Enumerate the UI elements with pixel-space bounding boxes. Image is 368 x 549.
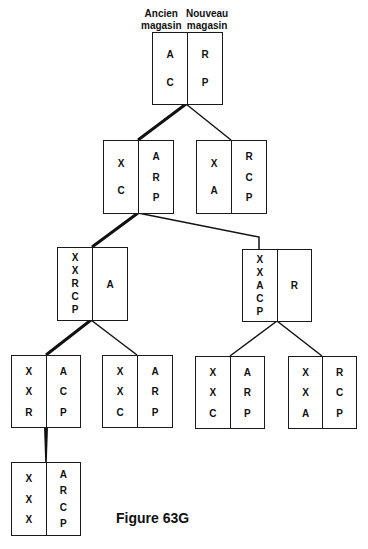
new-store-column: A bbox=[92, 248, 127, 320]
old-store-column: X X R C P bbox=[58, 248, 92, 320]
edge-root-l2a bbox=[138, 104, 186, 140]
item: P bbox=[256, 306, 263, 318]
item: P bbox=[336, 408, 343, 419]
new-store-column: R C P bbox=[322, 357, 356, 428]
item: X bbox=[211, 158, 218, 169]
item: X bbox=[118, 158, 125, 169]
item: X bbox=[25, 514, 32, 525]
item: P bbox=[72, 304, 79, 316]
item: C bbox=[166, 77, 173, 88]
new-store-column: A R P bbox=[138, 141, 173, 213]
new-store-column: A C P bbox=[46, 356, 81, 427]
node-l4c: X X C A R P bbox=[195, 356, 265, 429]
item: A bbox=[166, 49, 173, 60]
item: C bbox=[256, 293, 263, 305]
item: A bbox=[60, 469, 67, 480]
new-store-column: A R P bbox=[137, 356, 172, 427]
old-store-column: X X A C P bbox=[243, 250, 277, 321]
figure-caption: Figure 63G bbox=[116, 510, 189, 526]
item: C bbox=[116, 407, 123, 418]
old-store-column: X A bbox=[197, 141, 231, 213]
item: X bbox=[25, 494, 32, 505]
old-store-column: X X A bbox=[289, 357, 322, 428]
item: X bbox=[25, 366, 32, 377]
item: R bbox=[291, 280, 298, 291]
item: A bbox=[151, 366, 158, 377]
edge-l2a-l3b bbox=[138, 213, 259, 249]
item: C bbox=[71, 291, 78, 303]
item: P bbox=[244, 408, 251, 419]
node-l2b: X A R C P bbox=[196, 140, 267, 214]
item: X bbox=[256, 254, 263, 266]
node-l2a: X C A R P bbox=[103, 140, 174, 214]
edge-l3b-l4c bbox=[230, 321, 277, 356]
item: X bbox=[117, 366, 124, 377]
item: P bbox=[246, 192, 253, 203]
item: P bbox=[153, 192, 160, 203]
new-store-column: R P bbox=[187, 33, 222, 104]
header-old-line2: magasin bbox=[141, 20, 182, 32]
item: P bbox=[60, 518, 67, 529]
item: C bbox=[117, 185, 124, 196]
edge-l3b-l4d bbox=[277, 321, 322, 356]
header-new-line1: Nouveau bbox=[186, 8, 228, 20]
item: C bbox=[245, 172, 252, 183]
old-store-column: X C bbox=[104, 141, 138, 213]
item: X bbox=[209, 387, 216, 398]
old-store-column: X X C bbox=[103, 356, 137, 427]
new-store-column: A R C P bbox=[46, 463, 81, 535]
node-l5a: X X X A R C P bbox=[11, 462, 81, 536]
new-store-column: A R P bbox=[230, 357, 265, 428]
item: C bbox=[209, 408, 216, 419]
item: X bbox=[25, 473, 32, 484]
item: C bbox=[60, 502, 67, 513]
old-store-column: X X R bbox=[12, 356, 46, 427]
item: X bbox=[209, 367, 216, 378]
old-store-column: X X X bbox=[12, 463, 46, 535]
item: C bbox=[60, 386, 67, 397]
old-store-column: X X C bbox=[196, 357, 230, 428]
item: A bbox=[60, 366, 67, 377]
node-root: A C R P bbox=[152, 32, 223, 105]
item: A bbox=[244, 367, 251, 378]
edge-l4a-l5a bbox=[44, 427, 48, 462]
old-store-column: A C bbox=[153, 33, 187, 104]
item: X bbox=[302, 367, 309, 378]
node-l4b: X X C A R P bbox=[102, 355, 173, 428]
item: A bbox=[210, 185, 217, 196]
item: P bbox=[60, 407, 67, 418]
item: R bbox=[71, 278, 78, 290]
edge-root-l2b bbox=[186, 104, 231, 140]
header-new-store: Nouveau magasin bbox=[186, 8, 228, 32]
header-old-line1: Ancien bbox=[141, 8, 182, 20]
item: R bbox=[336, 367, 343, 378]
item: X bbox=[256, 267, 263, 279]
new-store-column: R bbox=[277, 250, 312, 321]
node-l3a: X X R C P A bbox=[57, 247, 128, 321]
item: R bbox=[152, 172, 159, 183]
item: R bbox=[201, 49, 208, 60]
item: A bbox=[106, 279, 113, 290]
item: X bbox=[72, 265, 79, 277]
item: R bbox=[245, 151, 252, 162]
item: R bbox=[244, 387, 251, 398]
item: P bbox=[202, 77, 209, 88]
item: A bbox=[152, 151, 159, 162]
item: P bbox=[152, 407, 159, 418]
item: A bbox=[302, 408, 309, 419]
item: R bbox=[25, 407, 32, 418]
edge-l3a-l4a bbox=[46, 320, 91, 355]
item: C bbox=[336, 387, 343, 398]
item: X bbox=[117, 386, 124, 397]
new-store-column: R C P bbox=[231, 141, 266, 213]
edge-l2a-l3a bbox=[92, 213, 138, 247]
item: A bbox=[256, 280, 263, 292]
item: R bbox=[60, 485, 67, 496]
item: X bbox=[72, 252, 79, 264]
item: X bbox=[25, 386, 32, 397]
node-l4d: X X A R C P bbox=[288, 356, 357, 429]
edge-l3a-l4b bbox=[91, 320, 137, 355]
node-l3b: X X A C P R bbox=[242, 249, 312, 322]
header-new-line2: magasin bbox=[186, 20, 228, 32]
item: X bbox=[302, 387, 309, 398]
